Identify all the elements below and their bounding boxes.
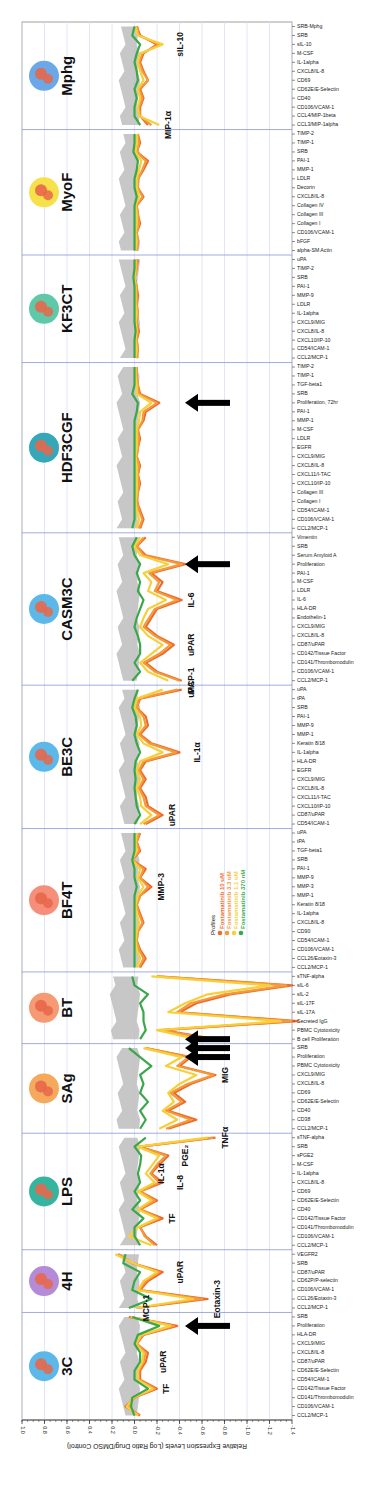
readout-label: Secreted IgG	[297, 1018, 328, 1024]
readout-label: SRB	[297, 32, 308, 38]
readout-label: CXCL8/IL-8	[297, 68, 324, 74]
readout-label: CD87/uPAR	[297, 811, 325, 817]
readout-label: CXCL10/IP-10	[297, 480, 331, 486]
readout-label: HLA-DR	[297, 1331, 317, 1337]
readout-annotation: MCP-1	[141, 1294, 151, 1321]
readout-label: SRB	[297, 274, 308, 280]
readout-label: LDLR	[297, 587, 311, 593]
tick-label: 0.8	[42, 1426, 48, 1434]
readout-label: SRB-Mphg	[297, 23, 322, 29]
legend-entry: Fostamatinib 370 nM	[240, 870, 246, 929]
readout-label: SRB	[297, 543, 308, 549]
readout-label: CD62E/E-Selectin	[297, 1197, 339, 1203]
readout-label: sTNF-alpha	[297, 1134, 324, 1140]
system-label: 4H	[58, 1272, 75, 1291]
readout-label: CXCL8/IL-8	[297, 462, 324, 468]
readout-label: CD106/VCAM-1	[297, 1233, 334, 1239]
readout-label: CXCL9/MIG	[297, 1071, 325, 1077]
legend-entry: Fostamatinib 3.3 uM	[226, 871, 232, 929]
readout-label: sIL-17F	[297, 1000, 315, 1006]
readout-label: CXCL9/MIG	[297, 1340, 325, 1346]
system-label: SAg	[58, 1073, 75, 1103]
readout-label: IL-1alpha	[297, 1170, 319, 1176]
readout-label: CD141/Thrombomodulin	[297, 1224, 354, 1230]
readout-label: TIMP-1	[297, 372, 314, 378]
readout-label: LDLR	[297, 175, 311, 181]
readout-label: Collagen III	[297, 211, 323, 217]
readout-label: CCL2/MCP-1	[297, 1125, 328, 1131]
readout-label: MMP-9	[297, 874, 314, 880]
readout-label: CD69	[297, 1188, 310, 1194]
legend-swatch	[225, 931, 230, 936]
readout-label: CXCL8/IL-8	[297, 785, 324, 791]
readout-label: PBMC Cytotoxicity	[297, 1062, 340, 1068]
x-axis: 1.00.80.60.40.20.0-0.2-0.4-0.6-0.8-1.0-1…	[20, 1420, 296, 1450]
readout-label: CD106/VCAM-1	[297, 946, 334, 952]
readout-label: sIL-17A	[297, 1009, 315, 1015]
system-label: BF4T	[58, 881, 75, 919]
readout-label: LDLR	[297, 435, 311, 441]
tick-label: 0.0	[132, 1426, 138, 1434]
readout-annotation: TNFα	[220, 1126, 230, 1149]
readout-label: CD40	[297, 1107, 310, 1113]
readout-annotation: uPAR	[175, 1261, 185, 1284]
readout-label: CXCL11/I-TAC	[297, 471, 331, 477]
readout-label: SRB	[297, 390, 308, 396]
readout-label: CXCL10/IP-10	[297, 803, 331, 809]
readout-label: tPA	[297, 838, 306, 844]
readout-label: Keratin 8/18	[297, 740, 325, 746]
system-label: BE3C	[58, 737, 75, 777]
readout-label: CD106/VCAM-1	[297, 1403, 334, 1409]
readout-label: CCL2/MCP-1	[297, 1242, 328, 1248]
readout-label: PAI-1	[297, 283, 310, 289]
readout-annotation: TF	[161, 1383, 171, 1393]
readout-label: sIL-10	[297, 41, 312, 47]
readout-label: TIMP-2	[297, 363, 314, 369]
readout-annotation: uPAR	[158, 1350, 168, 1373]
readout-label: Collagen I	[297, 220, 320, 226]
readout-label: IL-1alpha	[297, 749, 319, 755]
readout-label: alpha-SM Actin	[297, 247, 332, 253]
readout-label: CXCL8/IL-8	[297, 193, 324, 199]
readout-label: CCL2/MCP-1	[297, 1412, 328, 1418]
readout-annotation: MCP-1	[186, 667, 196, 694]
readout-label: CD90	[297, 928, 310, 934]
readout-label: CD106/VCAM-1	[297, 516, 334, 522]
readout-label: PAI-1	[297, 713, 310, 719]
readout-label: Collagen IV	[297, 202, 324, 208]
readout-annotation: uPAR	[186, 634, 196, 657]
tick-label: 1.0	[20, 1426, 26, 1434]
readout-label: CD40	[297, 1206, 310, 1212]
tick-label: 0.4	[87, 1426, 93, 1434]
readout-annotation: IL-6	[186, 592, 196, 607]
tick-label: -1.4	[290, 1425, 296, 1434]
readout-annotation: sIL-10	[175, 32, 185, 57]
readout-label: Proliferation	[297, 1053, 325, 1059]
readout-label: CD87/uPAR	[297, 1269, 325, 1275]
system-label: HDF3CGF	[58, 412, 75, 483]
tick-label: -0.4	[177, 1425, 183, 1434]
readout-label: VEGFR2	[297, 1251, 318, 1257]
readout-label: CXCL9/MIG	[297, 453, 325, 459]
readout-label: Endothelin-1	[297, 614, 326, 620]
readout-label: M-CSF	[297, 426, 313, 432]
readout-label: CD54/ICAM-1	[297, 345, 329, 351]
readout-label: CD62E/E-Selectin	[297, 86, 339, 92]
readout-label: CCL2/MCP-1	[297, 1304, 328, 1310]
legend-entry: Fostamatinib 1.1 uM	[233, 871, 239, 929]
readout-label: sIL-6	[297, 982, 309, 988]
system-label: CASM3C	[58, 577, 75, 641]
readout-annotation: PGE₂	[181, 1145, 191, 1167]
readout-label: M-CSF	[297, 1161, 313, 1167]
readout-label: CXCL9/MIG	[297, 623, 325, 629]
readout-label: CD40	[297, 95, 310, 101]
legend-swatch	[218, 931, 223, 936]
readout-label: TGF-beta1	[297, 381, 322, 387]
system-label: 3C	[58, 1356, 75, 1375]
readout-label: Proliferation, 72hr	[297, 399, 338, 405]
readout-label: sTNF-alpha	[297, 973, 324, 979]
legend-swatch	[232, 931, 237, 936]
readout-label: MMP-1	[297, 417, 314, 423]
readout-label: MMP-1	[297, 731, 314, 737]
readout-label: CCL4/MIP-1beta	[297, 112, 336, 118]
